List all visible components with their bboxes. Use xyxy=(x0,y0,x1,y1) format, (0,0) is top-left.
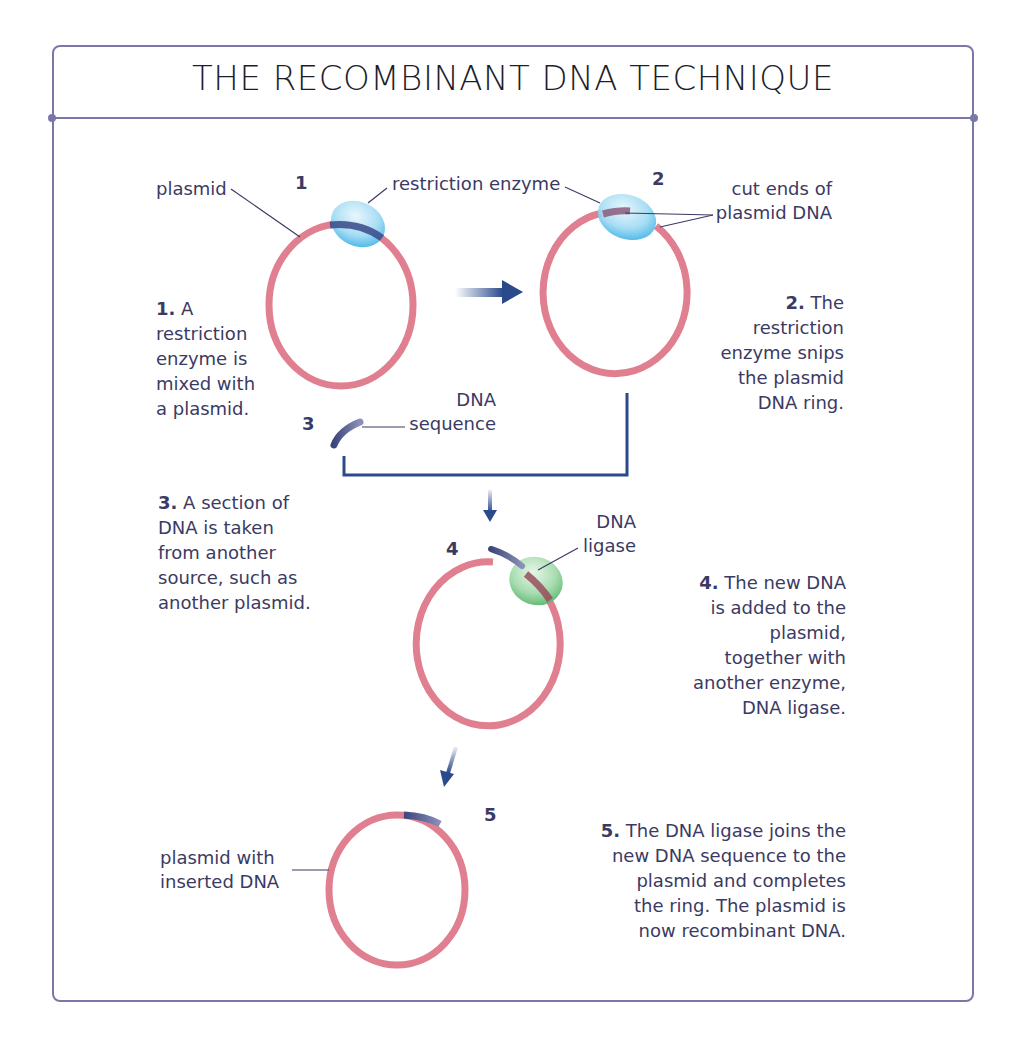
plasmid-4 xyxy=(416,549,569,726)
label-dna-ligase: DNA ligase xyxy=(560,510,636,558)
step-description-4: 4. The new DNA is added to the plasmid, … xyxy=(650,570,846,720)
label-dna-sequence: DNA sequence xyxy=(400,388,496,436)
step-description-2: 2. The restriction enzyme snips the plas… xyxy=(690,290,844,415)
step-number-3: 3 xyxy=(302,413,315,434)
label-plasmid: plasmid xyxy=(156,177,227,201)
step-description-5: 5. The DNA ligase joins the new DNA sequ… xyxy=(540,818,846,943)
label-restriction-enzyme: restriction enzyme xyxy=(392,172,560,196)
label-plasmid-with-inserted-dna: plasmid with inserted DNA xyxy=(160,846,279,894)
plasmid-1 xyxy=(269,192,413,386)
step-description-3: 3. A section of DNA is taken from anothe… xyxy=(158,490,348,615)
plasmid-5 xyxy=(329,815,465,965)
dna-sequence-fragment xyxy=(334,422,360,445)
step-number-1: 1 xyxy=(295,172,308,193)
arrow-to-step4 xyxy=(483,490,497,522)
step-number-5: 5 xyxy=(484,804,497,825)
step-number-4: 4 xyxy=(446,538,459,559)
step-number-2: 2 xyxy=(652,168,665,189)
arrow-step1-to-step2 xyxy=(455,280,523,304)
label-cut-ends: cut ends of plasmid DNA xyxy=(700,177,832,225)
arrow-to-step5 xyxy=(440,747,456,787)
diagram-graphics xyxy=(0,0,1027,1050)
step-description-1: 1. A restriction enzyme is mixed with a … xyxy=(156,296,286,421)
